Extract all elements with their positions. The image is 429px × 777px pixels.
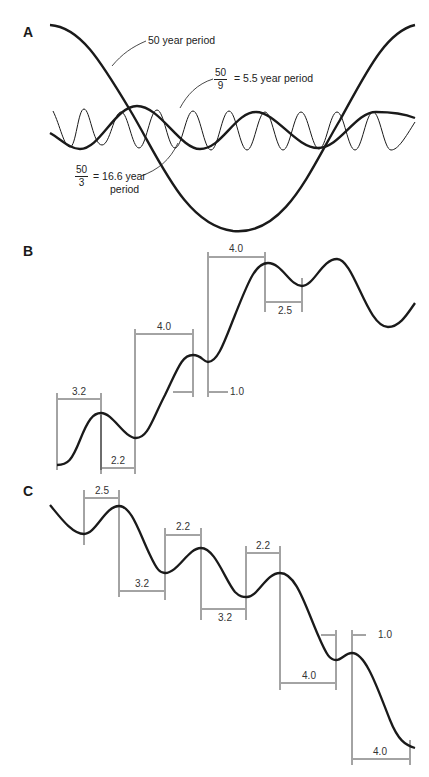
- fraction-denominator: 3: [75, 177, 88, 188]
- c-extension-lines: [84, 490, 410, 765]
- c-dim-label-2-5: 2.5: [95, 486, 109, 496]
- leader-16-6-year: [141, 143, 178, 176]
- c-dim-label-3-2-first: 3.2: [135, 579, 149, 589]
- panel-label-b: B: [23, 243, 33, 259]
- panel-label-c: C: [23, 483, 33, 499]
- b-dim-label-4-0-upper: 4.0: [229, 244, 243, 254]
- fraction-50-over-9: 50 9: [214, 68, 227, 91]
- panel-c-graph: [50, 490, 415, 765]
- b-extension-lines: [57, 252, 302, 474]
- fraction-numerator: 50: [75, 165, 88, 177]
- leader-5-5-year: [180, 79, 213, 108]
- c-dim-label-3-2-second: 3.2: [218, 613, 232, 623]
- label-period: period: [110, 184, 139, 195]
- c-dim-label-2-2-second: 2.2: [256, 541, 270, 551]
- panel-label-a: A: [23, 24, 33, 40]
- curve-c-falling: [50, 505, 415, 748]
- b-dim-label-3-2: 3.2: [72, 387, 86, 397]
- fraction-50-over-3: 50 3: [75, 165, 88, 188]
- panel-a-graph: [50, 25, 415, 231]
- c-dim-label-2-2-first: 2.2: [176, 522, 190, 532]
- curve-50-year: [50, 25, 415, 231]
- b-dim-label-4-0-lower: 4.0: [157, 322, 171, 332]
- label-16-6-year: = 16.6 year: [93, 171, 146, 182]
- curve-b-rising: [57, 259, 415, 465]
- label-50-year-period: 50 year period: [148, 35, 215, 46]
- b-dim-label-2-5: 2.5: [278, 306, 292, 316]
- b-dim-label-2-2: 2.2: [111, 456, 125, 466]
- b-dim-label-1-0: 1.0: [230, 387, 244, 397]
- label-5-5-year-period: = 5.5 year period: [234, 73, 313, 84]
- leader-50-year: [112, 41, 146, 66]
- c-dim-label-1-0: 1.0: [378, 630, 392, 640]
- diagram-canvas: [0, 0, 429, 777]
- fraction-numerator: 50: [214, 68, 227, 80]
- c-dim-label-4-0-first: 4.0: [302, 671, 316, 681]
- c-dim-label-4-0-second: 4.0: [373, 747, 387, 757]
- panel-b-graph: [57, 252, 415, 474]
- fraction-denominator: 9: [214, 80, 227, 91]
